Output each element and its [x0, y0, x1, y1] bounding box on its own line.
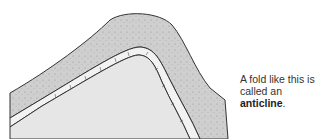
caption-lead: A fold like this is called an	[240, 73, 315, 97]
caption-term: anticline	[240, 97, 283, 109]
caption-text: A fold like this is called an anticline.	[240, 73, 329, 109]
caption-end: .	[283, 97, 286, 109]
anticline-diagram	[0, 0, 230, 139]
